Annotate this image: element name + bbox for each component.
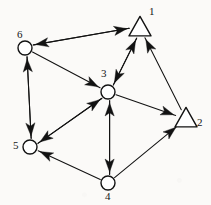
node-1[interactable] — [129, 16, 151, 35]
node-label-4: 4 — [105, 191, 111, 202]
node-3[interactable] — [101, 85, 115, 99]
graph-canvas — [0, 0, 211, 205]
node-label-3: 3 — [101, 68, 107, 79]
edge-2-to-1-arrowhead — [146, 40, 156, 54]
node-label-1: 1 — [149, 6, 155, 17]
node-5[interactable] — [23, 140, 37, 154]
edge-5-to-3-arrowhead — [87, 100, 100, 111]
edge-1-to-3-arrowhead — [114, 69, 124, 83]
edge-4-to-2-arrowhead — [163, 127, 176, 139]
node-6[interactable] — [18, 41, 32, 55]
edge-3-to-1-arrowhead — [126, 40, 136, 54]
edge-6-to-3-arrowhead — [85, 77, 99, 87]
edge-layer — [27, 28, 181, 179]
node-label-2: 2 — [197, 117, 203, 128]
node-label-6: 6 — [17, 29, 23, 40]
arrowhead-layer — [23, 26, 176, 172]
graph-figure: — — ———— —— — —— — — 123456 — [0, 0, 211, 205]
edge-4-to-2 — [115, 126, 178, 178]
node-label-5: 5 — [13, 140, 19, 151]
edge-3-to-5-arrowhead — [40, 131, 53, 142]
node-4[interactable] — [101, 176, 115, 190]
node-2[interactable] — [175, 107, 197, 126]
edge-1-to-6 — [34, 28, 130, 45]
edge-2-to-1 — [145, 38, 181, 110]
